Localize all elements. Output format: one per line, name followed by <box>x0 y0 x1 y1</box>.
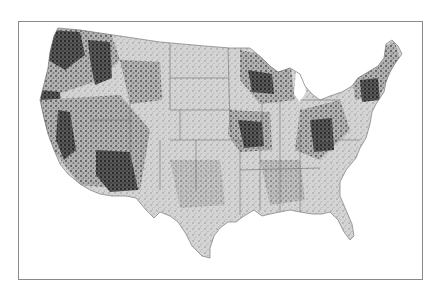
us-map <box>0 0 440 298</box>
land-area <box>0 0 440 298</box>
